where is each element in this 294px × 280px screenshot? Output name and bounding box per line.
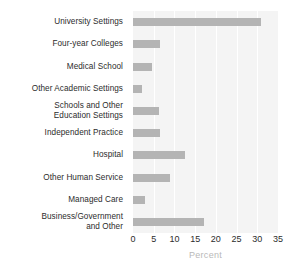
category-label: Other Human Service: [0, 166, 128, 188]
category-label: Business/Governmentand Other: [0, 211, 128, 233]
bar: [133, 151, 185, 159]
bar: [133, 218, 204, 226]
x-tick-label: 35: [273, 234, 283, 244]
bar-row: [133, 40, 278, 48]
category-label-line: Managed Care: [68, 195, 123, 205]
category-label: Managed Care: [0, 189, 128, 211]
bar-row: [133, 151, 278, 159]
category-label-line: and Other: [42, 222, 124, 232]
bar: [133, 63, 152, 71]
bar-row: [133, 129, 278, 137]
category-label-line: Schools and Other: [54, 101, 123, 111]
category-label-line: Hospital: [93, 150, 123, 160]
gridline: [278, 11, 279, 233]
bar: [133, 174, 170, 182]
category-label-line: Four-year Colleges: [52, 39, 123, 49]
x-tick-label: 10: [169, 234, 179, 244]
category-label: Medical School: [0, 55, 128, 77]
category-label: University Settings: [0, 11, 128, 33]
category-label: Independent Practice: [0, 122, 128, 144]
bar-row: [133, 85, 278, 93]
x-axis-tick-labels: 05101520253035: [133, 234, 278, 246]
category-label: Other Academic Settings: [0, 78, 128, 100]
x-tick-label: 0: [130, 234, 135, 244]
bar-row: [133, 218, 278, 226]
category-label-line: University Settings: [54, 17, 123, 27]
x-tick-label: 5: [151, 234, 156, 244]
x-tick-label: 15: [190, 234, 200, 244]
bar: [133, 85, 142, 93]
bar: [133, 40, 160, 48]
bar: [133, 129, 160, 137]
category-axis-labels: University SettingsFour-year CollegesMed…: [0, 11, 128, 233]
x-tick-label: 25: [232, 234, 242, 244]
bar-row: [133, 174, 278, 182]
bar-row: [133, 63, 278, 71]
bar-chart-figure: University SettingsFour-year CollegesMed…: [0, 0, 294, 280]
x-axis-title: Percent: [133, 250, 278, 260]
bar-row: [133, 107, 278, 115]
category-label-line: Education Settings: [54, 111, 123, 121]
bar-row: [133, 18, 278, 26]
bar: [133, 107, 159, 115]
bar: [133, 196, 145, 204]
category-label-line: Independent Practice: [45, 128, 123, 138]
category-label: Schools and OtherEducation Settings: [0, 100, 128, 122]
bar-row: [133, 196, 278, 204]
x-tick-label: 20: [211, 234, 221, 244]
category-label-line: Business/Government: [42, 212, 124, 222]
category-label-line: Other Human Service: [43, 173, 123, 183]
bar: [133, 18, 261, 26]
category-label: Four-year Colleges: [0, 33, 128, 55]
category-label-line: Other Academic Settings: [32, 84, 123, 94]
category-label: Hospital: [0, 144, 128, 166]
x-tick-label: 30: [252, 234, 262, 244]
plot-area: [133, 11, 278, 233]
category-label-line: Medical School: [67, 62, 123, 72]
